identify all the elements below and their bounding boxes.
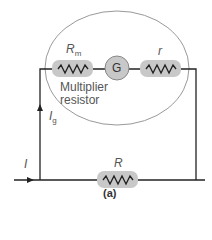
r-label: r (158, 44, 162, 58)
shunt-r-label: R (114, 156, 123, 170)
multiplier-resistor-text: Multiplierresistor (60, 81, 108, 107)
i-arrow-icon (27, 177, 34, 183)
galvanometer-label: G (112, 61, 121, 75)
rm-label: Rm (66, 42, 81, 58)
i-label: I (24, 157, 27, 171)
ig-arrow-icon (37, 104, 43, 111)
figure-caption: (a) (103, 187, 116, 199)
ig-label: Ig (49, 109, 57, 125)
